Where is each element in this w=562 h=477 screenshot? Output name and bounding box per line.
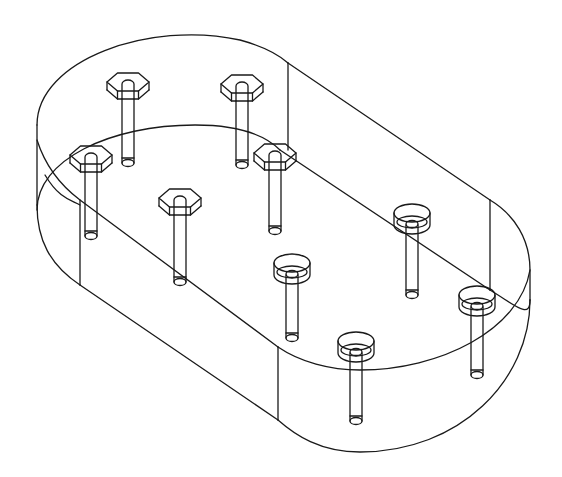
plate-edge (490, 200, 530, 300)
round-head-bolt (394, 204, 430, 299)
plate-edge (278, 270, 530, 370)
hex-bolt (159, 189, 201, 286)
plate-edge (37, 140, 278, 347)
plate-edge (45, 175, 80, 205)
bolts-group (70, 73, 495, 425)
hex-bolt (254, 144, 296, 235)
plate-edge (280, 150, 490, 290)
plate-edge (37, 35, 288, 125)
obround-plate (37, 35, 530, 452)
wireframe-drawing (0, 0, 562, 477)
plate-edge (80, 285, 278, 420)
hex-bolt (70, 146, 112, 240)
plate-edge (37, 125, 280, 210)
round-head-bolt (274, 254, 310, 342)
round-head-bolt (459, 286, 495, 379)
plate-edge (37, 205, 80, 285)
plate-edge (278, 300, 530, 452)
cad-drawing-canvas (0, 0, 562, 477)
hex-bolt (107, 73, 149, 167)
plate-edge (288, 63, 490, 200)
plate-edge (490, 290, 530, 310)
round-head-bolt (338, 332, 374, 425)
